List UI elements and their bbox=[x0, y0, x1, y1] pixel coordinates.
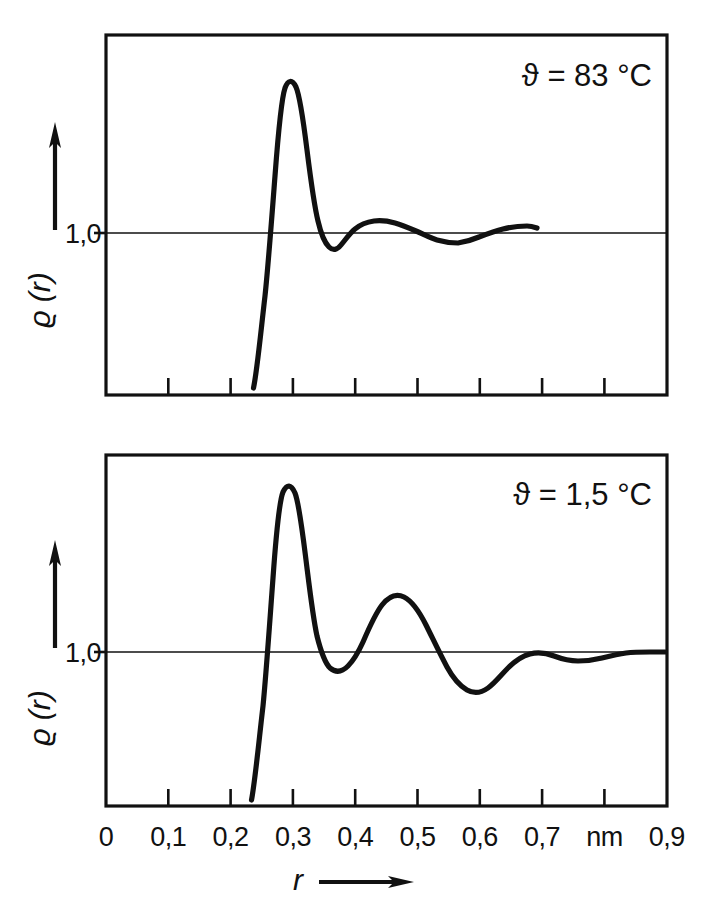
panel-top-y-value-label: 1,0 bbox=[65, 219, 101, 249]
x-tick-label-2: 0,2 bbox=[213, 822, 249, 852]
x-tick-label-9: 0,9 bbox=[649, 822, 685, 852]
panel-bottom-x-ticks bbox=[168, 789, 604, 806]
x-axis-tick-labels: 0 0,1 0,2 0,3 0,4 0,5 0,6 0,7 nm 0,9 bbox=[99, 822, 685, 852]
panel-bottom-annotation: ϑ = 1,5 °C bbox=[513, 477, 652, 512]
panel-top-y-axis-label-group: 1,0 ϱ (r) bbox=[23, 122, 101, 328]
x-tick-label-6: 0,6 bbox=[462, 822, 498, 852]
x-tick-label-5: 0,5 bbox=[399, 822, 435, 852]
x-axis-name-group: r bbox=[293, 863, 414, 896]
x-tick-label-4: 0,4 bbox=[337, 822, 374, 852]
x-tick-label-3: 0,3 bbox=[275, 822, 311, 852]
panel-top-curve bbox=[254, 81, 538, 388]
panel-top-x-ticks bbox=[168, 378, 604, 395]
radial-distribution-figure: ϑ = 83 °C 1,0 ϱ (r) ϑ = 1,5 °C 1,0 ϱ (r) bbox=[0, 0, 703, 909]
x-tick-label-7: 0,7 bbox=[524, 822, 560, 852]
panel-bottom-y-axis-name: ϱ (r) bbox=[23, 690, 56, 746]
panel-bottom-y-axis-label-group: 1,0 ϱ (r) bbox=[23, 540, 101, 746]
panel-bottom-curve bbox=[252, 486, 666, 800]
panel-top-annotation: ϑ = 83 °C bbox=[522, 58, 652, 93]
x-axis-unit-label: nm bbox=[586, 822, 623, 852]
panel-bottom-y-value-label: 1,0 bbox=[65, 638, 101, 668]
panel-top-y-axis-name: ϱ (r) bbox=[23, 272, 56, 328]
x-axis-name: r bbox=[293, 863, 304, 896]
x-tick-label-1: 0,1 bbox=[150, 822, 186, 852]
x-tick-label-0: 0 bbox=[99, 822, 114, 852]
